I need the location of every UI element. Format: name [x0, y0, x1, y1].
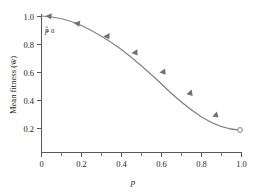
- arrow-marker-icon: [159, 68, 165, 74]
- arrow-marker-icon: [74, 21, 81, 27]
- page-bleed-fragment-3: ...: [146, 0, 151, 6]
- figure-container: ... ... ...: [0, 0, 261, 192]
- x-tick-label: 0.6: [156, 159, 167, 169]
- x-tick-label: 0.4: [116, 159, 127, 169]
- x-tick-label: 1.0: [236, 159, 247, 169]
- annotation-equals: = 0: [46, 27, 55, 34]
- equilibrium-annotation: p̂= 0: [44, 26, 55, 35]
- arrow-marker-icon: [46, 13, 52, 19]
- x-tick-label: 0.2: [76, 159, 87, 169]
- y-axis-ticks: [37, 17, 42, 129]
- x-axis-title: p: [130, 177, 136, 187]
- fitness-curve: [42, 16, 241, 130]
- chart-svg: 1.0 0.8 0.6 0.4 0.2 0 0.2 0.4 0.6 0.8 1.…: [0, 0, 261, 192]
- y-tick-label: 0.8: [23, 40, 34, 50]
- page-bleed-fragment-2: ...: [85, 0, 90, 6]
- endpoint-open-circle-marker: [238, 128, 243, 133]
- x-tick-label: 0: [39, 159, 43, 169]
- arrow-marker-icon: [131, 49, 137, 55]
- y-tick-label: 1.0: [23, 12, 34, 22]
- x-tick-labels: 0 0.2 0.4 0.6 0.8 1.0: [39, 159, 246, 169]
- y-axis-title: Mean fitness (w̄): [8, 56, 18, 114]
- y-tick-label: 0.6: [23, 68, 34, 78]
- arrow-marker-icon: [212, 111, 218, 117]
- arrow-marker-icon: [186, 90, 192, 96]
- x-tick-label: 0.8: [196, 159, 207, 169]
- y-tick-label: 0.4: [23, 96, 34, 106]
- direction-arrow-markers: [46, 13, 219, 117]
- y-tick-labels: 1.0 0.8 0.6 0.4 0.2: [23, 12, 34, 134]
- page-bleed-fragment-1: ...: [26, 0, 31, 6]
- y-tick-label: 0.2: [23, 124, 34, 134]
- page-bleed-text: ... ... ...: [22, 0, 237, 9]
